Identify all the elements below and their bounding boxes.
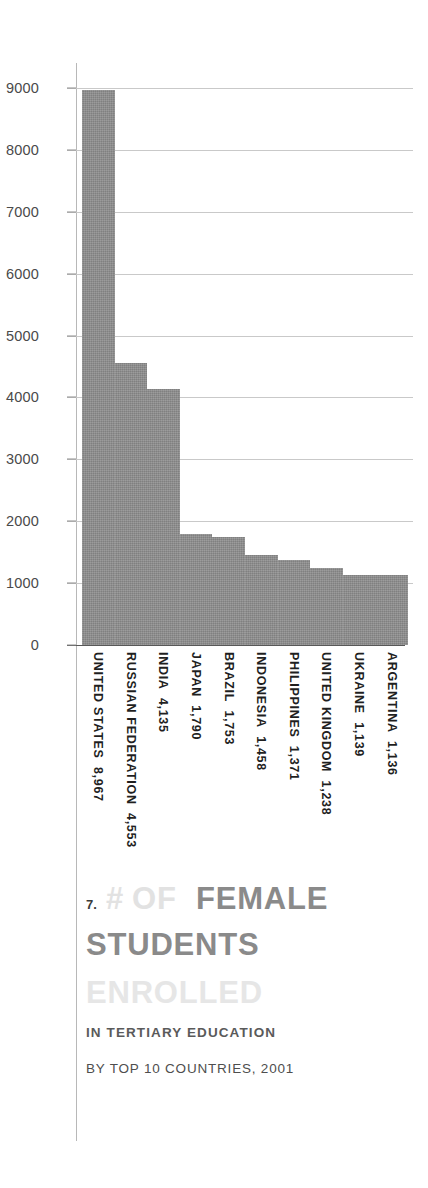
bar-category-label: INDONESIA bbox=[255, 652, 269, 728]
bar-value-label: 1,753 bbox=[222, 710, 236, 745]
bar-value-label: 4,135 bbox=[157, 698, 171, 733]
title-word-enrolled: ENROLLED bbox=[86, 970, 263, 1016]
y-tick-mark bbox=[67, 521, 76, 522]
bar bbox=[147, 389, 180, 645]
title-line-2: STUDENTS bbox=[86, 922, 416, 970]
bar bbox=[180, 534, 213, 645]
title-word-students: STUDENTS bbox=[86, 922, 259, 968]
chart-source-note: BY TOP 10 COUNTRIES, 2001 bbox=[86, 1040, 416, 1076]
y-tick-mark bbox=[67, 149, 76, 150]
chart-subtitle: IN TERTIARY EDUCATION bbox=[86, 1020, 416, 1040]
axis-baseline bbox=[67, 645, 405, 646]
bar-value-label: 1,238 bbox=[320, 781, 334, 816]
x-label-slot: BRAZIL 1,753 bbox=[212, 652, 245, 852]
bar-category-label: INDIA bbox=[157, 652, 171, 690]
title-line-1: 7. # OF FEMALE bbox=[86, 876, 416, 922]
bar-category-label: ARGENTINA bbox=[385, 652, 399, 733]
bar bbox=[212, 537, 245, 645]
y-tick-mark bbox=[67, 459, 76, 460]
title-word-female: FEMALE bbox=[196, 876, 328, 922]
bar-category-label: BRAZIL bbox=[222, 652, 236, 702]
y-tick-mark bbox=[67, 397, 76, 398]
y-tick-mark bbox=[67, 335, 76, 336]
y-tick-label: 4000 bbox=[0, 390, 39, 405]
y-tick-mark bbox=[67, 211, 76, 212]
bar bbox=[245, 555, 278, 645]
bar bbox=[115, 363, 148, 645]
bar-value-label: 1,790 bbox=[189, 705, 203, 740]
title-line-3: ENROLLED bbox=[86, 970, 416, 1020]
x-axis-label: UNITED STATES 8,967 bbox=[92, 652, 105, 802]
y-tick-label: 5000 bbox=[0, 328, 39, 343]
y-tick-label: 8000 bbox=[0, 143, 39, 158]
y-tick-mark bbox=[67, 645, 76, 646]
y-tick-label: 3000 bbox=[0, 452, 39, 467]
y-tick-label: 6000 bbox=[0, 266, 39, 281]
bar-value-label: 1,136 bbox=[385, 741, 399, 776]
y-tick-label: 1000 bbox=[0, 576, 39, 591]
bar-series bbox=[82, 88, 408, 645]
x-label-slot: UNITED KINGDOM 1,238 bbox=[310, 652, 343, 852]
chart-number: 7. bbox=[86, 897, 97, 912]
chart-caption: 7. # OF FEMALE STUDENTS ENROLLED IN TERT… bbox=[86, 876, 416, 1075]
bar-value-label: 4,553 bbox=[124, 813, 138, 848]
title-word-hash: # bbox=[106, 876, 124, 922]
x-axis-label: RUSSIAN FEDERATION 4,553 bbox=[125, 652, 138, 848]
x-label-slot: RUSSIAN FEDERATION 4,553 bbox=[115, 652, 148, 852]
x-label-slot: PHILIPPINES 1,371 bbox=[278, 652, 311, 852]
bar-category-label: UKRAINE bbox=[352, 652, 366, 714]
x-axis-label: UNITED KINGDOM 1,238 bbox=[320, 652, 333, 815]
y-tick-mark bbox=[67, 88, 76, 89]
x-label-slot: UKRAINE 1,139 bbox=[343, 652, 376, 852]
y-tick-label: 0 bbox=[0, 638, 39, 653]
x-axis-label: UKRAINE 1,139 bbox=[353, 652, 366, 757]
bar-value-label: 1,371 bbox=[287, 746, 301, 781]
x-label-slot: JAPAN 1,790 bbox=[180, 652, 213, 852]
x-axis-label: PHILIPPINES 1,371 bbox=[288, 652, 301, 781]
x-label-slot: INDONESIA 1,458 bbox=[245, 652, 278, 852]
x-axis-labels: UNITED STATES 8,967RUSSIAN FEDERATION 4,… bbox=[82, 652, 408, 852]
y-tick-label: 7000 bbox=[0, 205, 39, 220]
x-label-slot: UNITED STATES 8,967 bbox=[82, 652, 115, 852]
chart-page: 9000800070006000500040003000200010000 UN… bbox=[0, 0, 428, 1188]
x-axis-label: BRAZIL 1,753 bbox=[222, 652, 235, 745]
y-tick-label: 2000 bbox=[0, 514, 39, 529]
bar-value-label: 1,458 bbox=[255, 736, 269, 771]
bar bbox=[278, 560, 311, 645]
bar-value-label: 8,967 bbox=[92, 767, 106, 802]
bar-category-label: RUSSIAN FEDERATION bbox=[124, 652, 138, 805]
title-word-of: OF bbox=[132, 876, 177, 922]
bar bbox=[343, 575, 376, 645]
x-axis-label: JAPAN 1,790 bbox=[190, 652, 203, 740]
bar bbox=[310, 568, 343, 645]
x-label-slot: INDIA 4,135 bbox=[147, 652, 180, 852]
x-axis-label: INDIA 4,135 bbox=[157, 652, 170, 733]
bar bbox=[375, 575, 408, 645]
y-tick-label: 9000 bbox=[0, 81, 39, 96]
x-axis-label: INDONESIA 1,458 bbox=[255, 652, 268, 771]
x-axis-label: ARGENTINA 1,136 bbox=[385, 652, 398, 776]
y-tick-mark bbox=[67, 273, 76, 274]
y-tick-mark bbox=[67, 583, 76, 584]
plot-area: 9000800070006000500040003000200010000 bbox=[77, 88, 403, 645]
bar bbox=[82, 90, 115, 645]
bar-category-label: UNITED KINGDOM bbox=[320, 652, 334, 772]
x-label-slot: ARGENTINA 1,136 bbox=[375, 652, 408, 852]
bar-value-label: 1,139 bbox=[352, 722, 366, 757]
bar-category-label: PHILIPPINES bbox=[287, 652, 301, 738]
bar-category-label: JAPAN bbox=[189, 652, 203, 697]
bar-category-label: UNITED STATES bbox=[92, 652, 106, 759]
